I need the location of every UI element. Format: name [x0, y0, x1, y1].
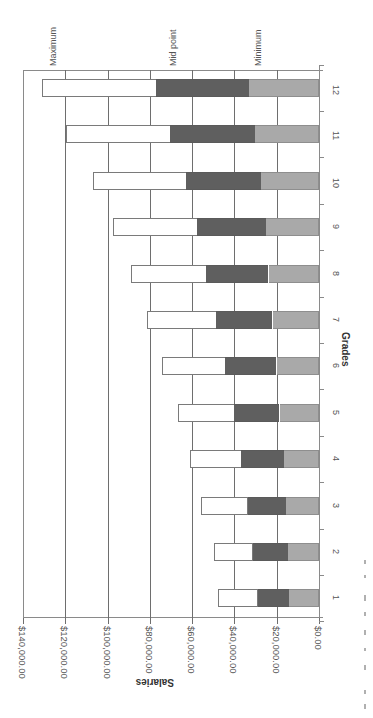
bar-minimum-segment [284, 450, 319, 468]
figure-caption-fragment [364, 595, 366, 601]
bar-midpoint-segment [241, 450, 284, 468]
bar-minimum-segment [269, 265, 319, 283]
figure-caption-fragment [364, 648, 366, 651]
grade-label: 5 [331, 410, 341, 415]
bar-midpoint-segment [206, 265, 268, 283]
bar-minimum-segment [286, 497, 319, 515]
bar-midpoint-segment [216, 311, 272, 329]
bar-minimum-segment [249, 79, 319, 97]
salary-grade-chart: $0.00$20,000.00$40,000.00$60,000.00$80,0… [0, 0, 373, 718]
figure-caption-fragment [364, 690, 366, 694]
figure-caption-fragment [364, 612, 366, 616]
value-axis-label: $120,000.00 [59, 626, 70, 679]
grade-label: 12 [331, 85, 341, 95]
bar-maximum-segment [190, 450, 242, 468]
bar-minimum-segment [280, 404, 319, 422]
bar-minimum-segment [266, 218, 319, 236]
bar-midpoint-segment [248, 497, 286, 515]
value-axis-tick [277, 618, 278, 624]
bar-minimum-segment [288, 543, 319, 561]
bar-maximum-segment [113, 218, 199, 236]
gridline [150, 70, 151, 618]
gridline [192, 70, 193, 618]
grade-label: 2 [331, 549, 341, 554]
gridline [277, 70, 278, 618]
bar-maximum-segment [214, 543, 253, 561]
grade-label: 4 [331, 456, 341, 461]
gridline [108, 70, 109, 618]
value-axis-label: $140,000.00 [17, 626, 28, 679]
gridline [65, 70, 66, 618]
category-tick [319, 529, 324, 530]
bar-maximum-segment [178, 404, 235, 422]
bar-maximum-segment [218, 589, 258, 607]
value-axis-tick [192, 618, 193, 624]
category-tick [319, 204, 324, 205]
value-axis-tick [234, 618, 235, 624]
category-tick [319, 621, 324, 622]
category-tick [319, 157, 324, 158]
bar-maximum-segment [131, 265, 207, 283]
figure-caption-fragment [364, 665, 366, 670]
value-axis-label: $60,000.00 [186, 626, 197, 674]
grade-label: 10 [331, 178, 341, 188]
grade-label: 7 [331, 317, 341, 322]
category-tick [319, 65, 324, 66]
bar-midpoint-segment [186, 172, 261, 190]
category-tick [319, 575, 324, 576]
value-axis-tick [108, 618, 109, 624]
grade-label: 1 [331, 595, 341, 600]
category-tick [319, 436, 324, 437]
plot-area-border [23, 70, 323, 618]
zero-baseline [319, 66, 320, 624]
value-axis-label: $40,000.00 [228, 626, 239, 674]
figure-caption-fragment [364, 560, 366, 564]
bar-minimum-segment [255, 125, 319, 143]
category-tick [319, 250, 324, 251]
category-tick [319, 343, 324, 344]
bar-midpoint-segment [197, 218, 266, 236]
value-axis-label: $20,000.00 [271, 626, 282, 674]
bar-midpoint-segment [156, 79, 249, 97]
annotation-maximum: Maximum [48, 27, 58, 66]
bar-maximum-segment [147, 311, 217, 329]
y-axis-title: Salaries [136, 677, 174, 688]
figure-caption-fragment [364, 575, 366, 578]
bar-maximum-segment [201, 497, 248, 515]
bar-midpoint-segment [225, 357, 276, 375]
value-axis-label: $100,000.00 [102, 626, 113, 679]
figure-caption-fragment [364, 704, 366, 709]
annotation-mid-point: Mid point [168, 29, 178, 66]
category-tick [319, 297, 324, 298]
value-axis-label: $80,000.00 [144, 626, 155, 674]
annotation-minimum: Minimum [253, 29, 263, 66]
gridline [234, 70, 235, 618]
bar-midpoint-segment [170, 125, 255, 143]
figure-caption-fragment [364, 630, 366, 635]
bar-minimum-segment [261, 172, 319, 190]
value-axis-tick [65, 618, 66, 624]
grade-label: 9 [331, 224, 341, 229]
value-axis-tick [23, 618, 24, 624]
grade-label: 8 [331, 271, 341, 276]
bar-minimum-segment [273, 311, 319, 329]
value-axis-label: $0.00 [313, 626, 324, 650]
value-axis-tick [150, 618, 151, 624]
grade-label: 11 [331, 131, 341, 140]
bar-maximum-segment [93, 172, 187, 190]
bar-minimum-segment [277, 357, 319, 375]
category-tick [319, 111, 324, 112]
bar-midpoint-segment [258, 589, 289, 607]
bar-maximum-segment [66, 125, 171, 143]
bar-maximum-segment [162, 357, 226, 375]
category-tick [319, 389, 324, 390]
bar-midpoint-segment [234, 404, 279, 422]
bar-minimum-segment [289, 589, 319, 607]
category-tick [319, 482, 324, 483]
x-axis-title: Grades [340, 332, 351, 366]
bar-maximum-segment [42, 79, 157, 97]
bar-midpoint-segment [253, 543, 288, 561]
grade-label: 3 [331, 503, 341, 508]
